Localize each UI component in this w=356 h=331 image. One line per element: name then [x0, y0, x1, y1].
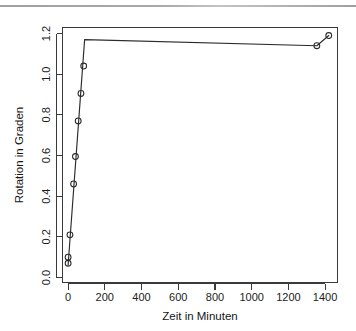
- x-tick-label: 400: [132, 291, 150, 303]
- scatter-line-plot: 0.0 0.2 0.4 0.6 0.8 1.0 1.2 0 200 400 60…: [0, 0, 356, 331]
- y-tick-label: 0.0: [40, 270, 52, 285]
- y-tick-label: 0.4: [40, 189, 52, 204]
- x-tick-label: 800: [206, 291, 224, 303]
- y-axis-title: Rotation in Graden: [13, 107, 25, 204]
- chart-figure: 0.0 0.2 0.4 0.6 0.8 1.0 1.2 0 200 400 60…: [0, 0, 356, 331]
- y-tick-label: 0.6: [40, 148, 52, 163]
- y-axis-tick-labels: 0.0 0.2 0.4 0.6 0.8 1.0 1.2: [40, 26, 52, 285]
- x-axis-ticks: [68, 284, 325, 290]
- x-axis-tick-labels: 0 200 400 600 800 1000 1200 1400: [65, 291, 337, 303]
- y-tick-label: 0.8: [40, 107, 52, 122]
- x-axis-title: Zeit in Minuten: [162, 310, 237, 322]
- x-tick-label: 1400: [313, 291, 337, 303]
- data-point-markers: [65, 33, 331, 267]
- y-tick-label: 1.0: [40, 67, 52, 82]
- series-polyline-group: [68, 36, 329, 266]
- x-tick-label: 1200: [276, 291, 300, 303]
- y-tick-label: 1.2: [40, 26, 52, 41]
- plot-frame: [63, 28, 338, 283]
- x-tick-label: 0: [65, 291, 71, 303]
- x-tick-label: 200: [96, 291, 114, 303]
- series-line-rotation: [68, 36, 329, 266]
- y-axis-ticks: [57, 34, 63, 278]
- data-point: [81, 63, 87, 69]
- x-tick-label: 1000: [239, 291, 263, 303]
- y-tick-label: 0.2: [40, 229, 52, 244]
- x-tick-label: 600: [169, 291, 187, 303]
